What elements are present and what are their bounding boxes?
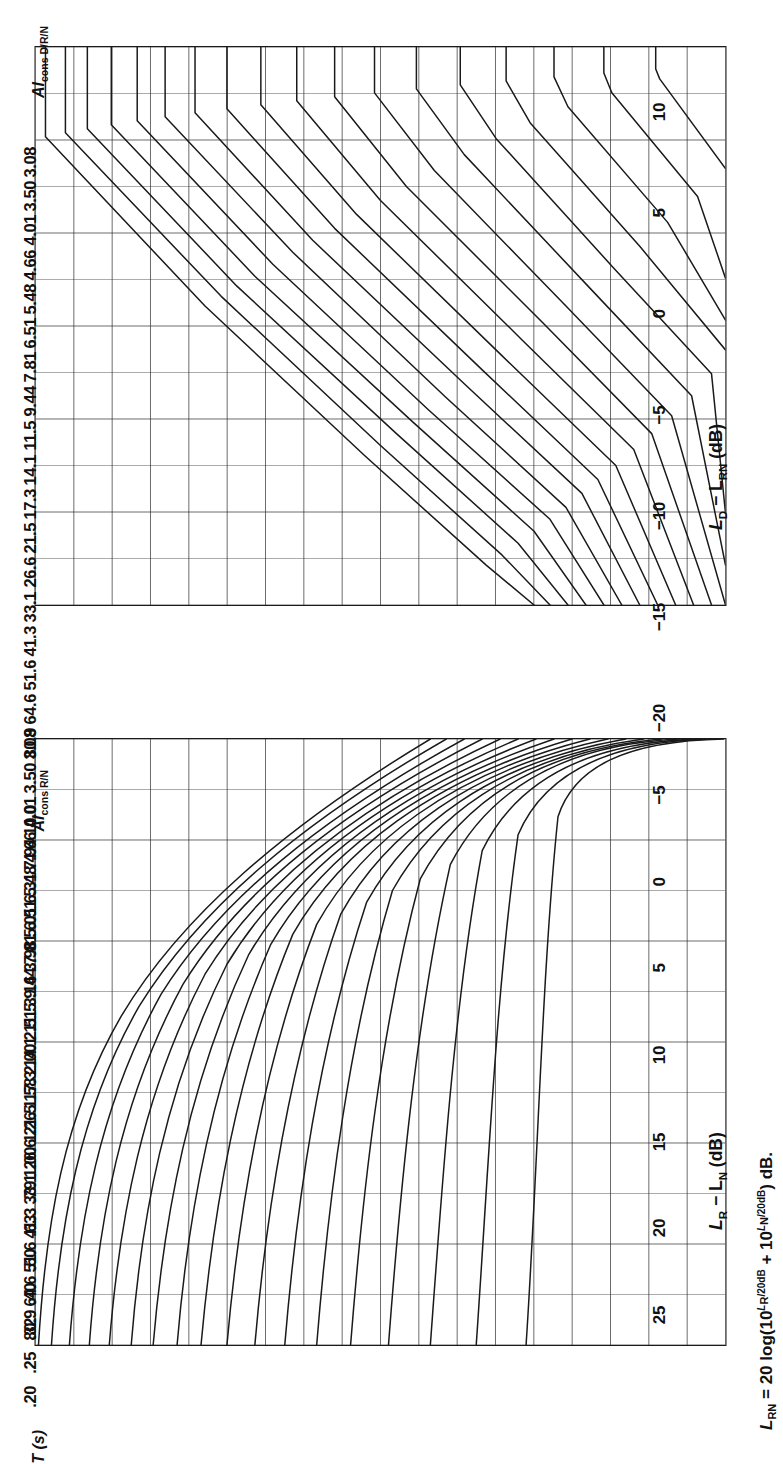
upper-value-1: 3.50 [21,181,40,212]
lower-axis-title: LR − LN (dB) [706,1132,729,1230]
lower-tick-0: 25 [650,1306,670,1324]
lower-value-1: 3.50 [21,763,40,794]
t-value-2: .32 [21,1318,40,1340]
t-value-1: .25 [21,1352,40,1374]
upper-tick-4: 0 [650,309,670,318]
upper-plot-svg [35,739,725,1345]
panel-upper [0,729,783,1458]
lower-tick-6: −5 [650,785,670,804]
t-value-15: 6.31 [21,873,40,904]
upper-value-6: 7.81 [21,352,40,383]
upper-plot-area [34,738,726,1346]
t-value-0: .20 [21,1386,40,1408]
lower-plot-svg [35,47,725,605]
lower-tick-1: 20 [650,1219,670,1237]
upper-value-5: 6.51 [21,318,40,349]
upper-value-0: 3.08 [21,147,40,178]
upper-axis-title: LD − LRN (dB) [706,424,729,530]
upper-column-header: Alcons D/R/N [30,26,50,98]
t-value-16: 7.94 [21,839,40,870]
lower-tick-3: 10 [650,1046,670,1064]
upper-value-11: 21.5 [21,523,40,554]
t-value-5: .63 [21,1215,40,1237]
upper-value-14: 41.3 [21,626,40,657]
t-value-9: 1.58 [21,1078,40,1109]
t-value-8: 1.26 [21,1112,40,1143]
t-value-17: 10.0 [21,805,40,836]
lower-tick-5: 0 [650,877,670,886]
upper-value-4: 5.48 [21,284,40,315]
upper-value-15: 51.6 [21,660,40,691]
upper-value-8: 11.5 [21,421,40,451]
upper-value-7: 9.44 [21,386,40,417]
upper-value-3: 4.66 [21,250,40,281]
upper-tick-2: −10 [650,502,670,530]
upper-value-13: 33.1 [21,592,40,623]
lower-tick-2: 15 [650,1132,670,1150]
lower-tick-4: 5 [650,964,670,973]
t-column-header: T (s) [30,1430,48,1464]
upper-tick-5: 5 [650,208,670,217]
t-value-14: 5.01 [21,907,40,938]
lower-value-0: 3.08 [21,729,40,760]
upper-tick-6: 10 [650,103,670,121]
upper-tick-3: −5 [650,406,670,425]
upper-value-12: 26.6 [21,557,40,588]
upper-value-9: 14.1 [21,455,40,486]
t-value-11: 2.51 [21,1010,40,1041]
upper-tick-1: −15 [650,603,670,631]
t-value-4: .50 [21,1249,40,1271]
lower-grid [35,47,725,605]
upper-value-column [0,1348,783,1458]
upper-tick-0: −20 [650,704,670,732]
upper-grid [35,739,725,1345]
upper-value-2: 4.01 [21,215,40,246]
upper-value-16: 64.6 [21,694,40,725]
footnote-formula: LRN = 20 log(10LR/20dB + 10LN/20dB) dB. [756,1152,778,1430]
t-value-10: 2.00 [21,1044,40,1075]
t-value-13: 3.98 [21,941,40,972]
t-value-12: 3.16 [21,976,40,1007]
t-value-6: .79 [21,1181,40,1203]
t-value-7: 1.00 [21,1147,40,1178]
upper-value-10: 17.3 [21,489,40,520]
lower-plot-area [34,46,726,606]
t-value-3: .40 [21,1283,40,1305]
